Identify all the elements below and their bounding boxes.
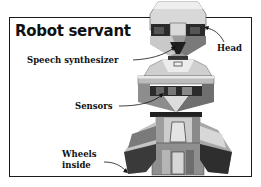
- label-wheels-line1: Wheels: [62, 149, 97, 159]
- robot-torso: [138, 60, 214, 117]
- label-sensors: Sensors: [75, 101, 112, 111]
- robot-head: [150, 2, 206, 60]
- robot-base: [124, 117, 232, 175]
- head-leader-line: [206, 28, 224, 42]
- label-head: Head: [217, 43, 242, 53]
- diagram-title: Robot servant: [15, 22, 131, 40]
- wheels-leader-line: [104, 162, 126, 171]
- label-speech-synthesizer: Speech synthesizer: [27, 55, 118, 65]
- label-wheels-line2: inside: [62, 160, 91, 170]
